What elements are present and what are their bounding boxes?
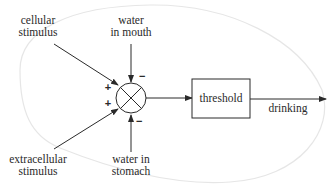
- svg-text:stimulus: stimulus: [19, 165, 59, 177]
- svg-text:stomach: stomach: [112, 165, 151, 177]
- extracellular-sign: +: [105, 97, 111, 109]
- svg-text:threshold: threshold: [200, 92, 243, 104]
- svg-text:water in: water in: [112, 153, 150, 165]
- svg-text:extracellular: extracellular: [9, 153, 67, 165]
- extracellular-stimulus-label: extracellular stimulus: [9, 153, 67, 177]
- drinking-control-diagram: cellular stimulus water in mouth extrace…: [0, 0, 336, 187]
- extracellular-arrow: [54, 109, 118, 149]
- cellular-arrow: [54, 44, 118, 85]
- water-in-stomach-label: water in stomach: [112, 153, 151, 177]
- drinking-label: drinking: [269, 102, 308, 115]
- svg-text:in mouth: in mouth: [110, 26, 151, 38]
- svg-text:stimulus: stimulus: [19, 26, 59, 38]
- water-in-mouth-label: water in mouth: [110, 14, 151, 38]
- threshold-block: threshold: [192, 79, 250, 118]
- summing-junction: [116, 83, 146, 113]
- cellular-stimulus-label: cellular stimulus: [19, 14, 59, 38]
- svg-text:cellular: cellular: [21, 14, 56, 26]
- mouth-sign: −: [139, 70, 145, 82]
- stomach-sign: −: [136, 115, 142, 127]
- cellular-sign: +: [105, 81, 111, 93]
- svg-text:water: water: [118, 14, 144, 26]
